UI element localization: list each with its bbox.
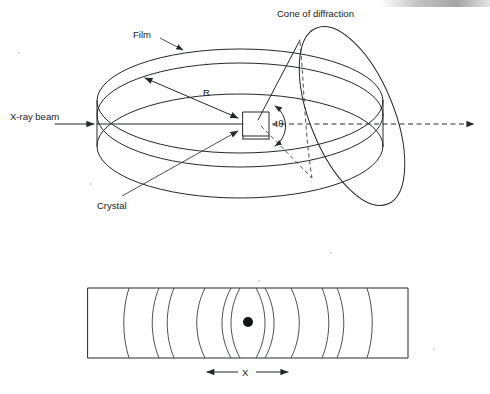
figure-root: 4θ R Film Cone of diffraction X-ray beam…: [0, 0, 490, 394]
diffraction-arc-left-1: [231, 288, 240, 358]
diffraction-arc-right-4: [322, 288, 329, 358]
radius-label: R: [203, 87, 210, 98]
strip-dimension-x: X: [207, 364, 288, 379]
diffraction-arc-left-3: [197, 288, 205, 358]
crystal-cube-face: [243, 112, 269, 136]
diffraction-arc-right-6: [367, 288, 372, 358]
diffraction-arc-right-1: [256, 288, 265, 358]
xray-diffraction-diagram: 4θ R Film Cone of diffraction X-ray beam…: [0, 0, 490, 394]
diffraction-arc-left-5: [152, 288, 159, 358]
radius-arrow: [145, 78, 238, 118]
diffraction-arc-left-2: [222, 288, 231, 358]
crystal-callout: Crystal: [97, 131, 238, 211]
film-callout: Film: [133, 29, 183, 50]
dimension-label-x: X: [242, 367, 249, 378]
direct-beam-spot: [243, 317, 253, 327]
diffraction-arc-right-2: [265, 288, 274, 358]
film-bottom-rim-ellipse: [97, 94, 383, 198]
diffraction-arc-right-3: [291, 288, 299, 358]
crystal-label: Crystal: [97, 200, 127, 211]
film-label: Film: [133, 29, 151, 40]
angle-4theta-marker: 4θ: [273, 106, 286, 146]
film-leader-line: [160, 38, 183, 50]
film-inner-rim-ellipse: [97, 63, 383, 167]
unrolled-film-strip: [88, 288, 408, 358]
beam-label: X-ray beam: [10, 111, 59, 122]
diffraction-arc-left-6: [124, 288, 129, 358]
crystal-leader-line: [122, 131, 238, 196]
angle-label: 4θ: [273, 118, 284, 129]
cone-label: Cone of diffraction: [277, 8, 354, 19]
radius-indicator: R: [145, 78, 238, 118]
diffraction-arc-right-5: [337, 288, 344, 358]
film-top-rim-ellipse: [97, 49, 383, 153]
crystal-specimen: [243, 112, 269, 139]
diffraction-arc-left-4: [167, 288, 174, 358]
cone-edge-upper: [258, 40, 300, 120]
